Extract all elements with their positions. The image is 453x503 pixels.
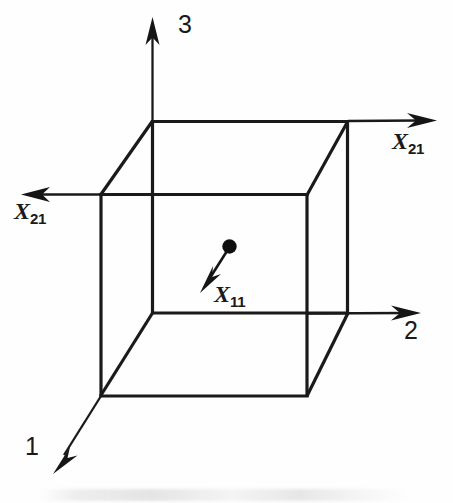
cube-edge-depth-bottom-right: [307, 313, 348, 396]
axis-label-2: 2: [404, 318, 418, 343]
vector-label-x11: X11: [214, 282, 245, 306]
cube-edge-depth-bottom-left: [101, 313, 153, 396]
cube-front-face: [100, 193, 309, 397]
cube-edge-depth-top-right: [307, 121, 348, 195]
vector-x11-origin-dot: [222, 239, 236, 253]
stress-cube-svg: [0, 0, 453, 503]
x21-right-base: X: [392, 128, 408, 154]
x21-right-subscript: 21: [408, 140, 424, 157]
figure-root: 3 2 1 X21 X21 X11: [0, 0, 453, 503]
cube-depth-edges: [101, 121, 349, 396]
axis-1-group: [53, 396, 101, 474]
axis-x21-right-group: [348, 113, 437, 128]
axis-3-group: [146, 17, 160, 122]
axis-label-x21-left: X21: [14, 199, 46, 223]
axis-label-1: 1: [25, 434, 39, 459]
axis-label-x21-right: X21: [392, 129, 424, 153]
x11-subscript: 11: [230, 293, 245, 310]
x21-left-base: X: [14, 198, 30, 224]
cube-edge-depth-top-left: [101, 121, 153, 195]
x11-base: X: [214, 281, 230, 307]
axis-label-3: 3: [178, 12, 192, 37]
axis-x21-right-line: [348, 121, 420, 122]
axis-1-line: [64, 396, 101, 455]
x21-left-subscript: 21: [30, 210, 46, 227]
cube-back-face: [151, 120, 349, 314]
